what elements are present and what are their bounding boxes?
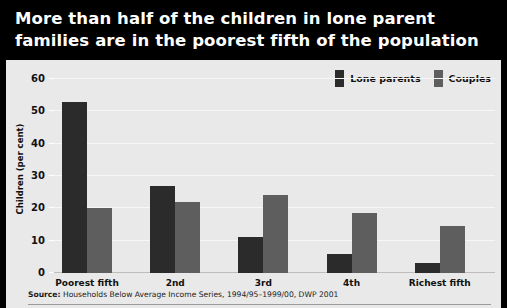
- bar-lone-parents[interactable]: [238, 237, 263, 273]
- bar-groups: Poorest fifth2nd3rd4thRichest fifth: [54, 79, 495, 273]
- bar-group: 2nd: [142, 79, 230, 273]
- y-tick-label-10: 10: [31, 234, 45, 245]
- source-bar: Source: Households Below Average Income …: [6, 286, 501, 308]
- y-tick-label-0: 0: [38, 267, 45, 278]
- chart-title-block: More than half of the children in lone p…: [3, 3, 504, 59]
- source-text: Source: Households Below Average Income …: [28, 290, 501, 299]
- bar-couples[interactable]: [263, 195, 288, 273]
- y-tick-label-20: 20: [31, 202, 45, 213]
- figure-container: More than half of the children in lone p…: [0, 0, 507, 308]
- bar-group: 3rd: [230, 79, 318, 273]
- bar-couples[interactable]: [352, 213, 377, 273]
- bar-couples[interactable]: [175, 202, 200, 273]
- bar-group: Poorest fifth: [54, 79, 142, 273]
- source-divider: [28, 304, 491, 305]
- y-axis-title: Children (per cent): [15, 109, 25, 229]
- bar-lone-parents[interactable]: [62, 102, 87, 273]
- chart-panel: Children (per cent) Lone parents Couples…: [6, 60, 501, 286]
- bar-group: 4th: [319, 79, 407, 273]
- source-prefix: Source:: [28, 290, 61, 299]
- bar-group: Richest fifth: [407, 79, 495, 273]
- y-tick-label-60: 60: [31, 73, 45, 84]
- y-tick-label-40: 40: [31, 137, 45, 148]
- chart-title-line-1: More than half of the children in lone p…: [15, 8, 494, 30]
- plot-area: 0102030405060 Poorest fifth2nd3rd4thRich…: [54, 79, 495, 273]
- y-tick-label-50: 50: [31, 105, 45, 116]
- source-body: Households Below Average Income Series, …: [61, 290, 339, 299]
- y-tick-label-30: 30: [31, 170, 45, 181]
- bar-couples[interactable]: [440, 226, 465, 273]
- bar-lone-parents[interactable]: [327, 254, 352, 273]
- bar-lone-parents[interactable]: [150, 186, 175, 273]
- chart-title-line-2: families are in the poorest fifth of the…: [15, 30, 494, 52]
- bar-lone-parents[interactable]: [415, 263, 440, 273]
- bar-couples[interactable]: [87, 208, 112, 273]
